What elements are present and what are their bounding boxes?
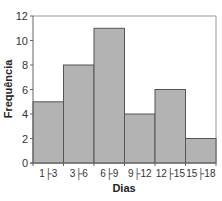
bar-3 (94, 28, 125, 163)
histogram-chart: 024681012 1├33├66├99├1212├1515├18 Dias F… (0, 0, 222, 201)
x-tick-label: 12├15 (156, 167, 186, 181)
y-axis-title: Frequência (2, 59, 14, 119)
y-tick-label: 10 (16, 35, 28, 47)
bars (33, 28, 216, 163)
bar-2 (64, 65, 95, 163)
x-tick-label: 3├6 (70, 167, 89, 181)
bar-5 (155, 90, 186, 164)
y-tick-label: 2 (22, 133, 28, 145)
y-tick-label: 4 (22, 108, 28, 120)
bar-1 (33, 102, 64, 163)
x-tick-label: 6├9 (100, 167, 119, 181)
x-tick-label: 1├3 (39, 167, 58, 181)
x-tick-label: 15├18 (186, 167, 216, 181)
y-tick-label: 8 (22, 59, 28, 71)
y-tick-label: 6 (22, 84, 28, 96)
bar-4 (125, 114, 156, 163)
x-axis-title: Dias (112, 182, 135, 194)
y-tick-label: 12 (16, 10, 28, 22)
bar-6 (186, 139, 217, 164)
x-axis: 1├33├66├99├1212├1515├18 (30, 163, 216, 181)
x-tick-label: 9├12 (128, 167, 152, 181)
y-axis: 024681012 (16, 10, 33, 169)
y-tick-label: 0 (22, 157, 28, 169)
